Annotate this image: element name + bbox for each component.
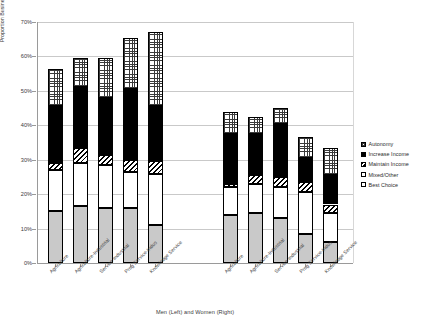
bar-men-4[interactable] [148,22,163,263]
bar-segment-mixed[interactable] [148,174,163,226]
bar-segment-maintain[interactable] [273,177,288,187]
legend-item-autonomy[interactable]: Autonomy [361,139,409,149]
bar-segment-autonomy[interactable] [223,112,238,134]
bar-segment-best[interactable] [123,208,138,263]
bar-segment-mixed[interactable] [298,192,313,233]
bar-segment-increase[interactable] [323,175,338,204]
y-tick-mark [32,194,36,195]
bar-segment-maintain[interactable] [223,184,238,187]
bar-segment-increase[interactable] [98,98,113,155]
plot-right-border [353,22,354,263]
bar-segment-mixed[interactable] [323,213,338,242]
bar-segment-maintain[interactable] [98,155,113,165]
bar-segment-best[interactable] [98,208,113,263]
bar-segment-autonomy[interactable] [48,69,63,107]
bar-segment-maintain[interactable] [298,182,313,192]
legend-label: Maintain Income [369,161,409,167]
bar-segment-autonomy[interactable] [148,32,163,106]
y-tick-label: 40% [21,122,32,128]
bar-segment-increase[interactable] [248,134,263,175]
bar-women-1[interactable] [248,22,263,263]
bar-segment-mixed[interactable] [248,184,263,213]
legend-item-increase[interactable]: Increase Income [361,149,409,159]
bar-men-0[interactable] [48,22,63,263]
y-tick-label: 20% [21,191,32,197]
bar-segment-mixed[interactable] [73,163,88,206]
y-tick-label: 0% [24,260,32,266]
bar-segment-maintain[interactable] [323,205,338,214]
bar-segment-maintain[interactable] [123,160,138,172]
y-axis-ticks: 0%10%20%30%40%50%60%70% [0,0,36,327]
bar-segment-increase[interactable] [73,87,88,147]
chart-container: 0%10%20%30%40%50%60%70% Proportion Busin… [0,0,427,327]
y-tick-mark [32,263,36,264]
legend-item-mixed[interactable]: Mixed/Other [361,170,409,180]
bar-segment-autonomy[interactable] [323,148,338,176]
bar-segment-autonomy[interactable] [248,117,263,134]
legend-swatch-autonomy-icon [361,142,366,147]
y-tick-mark [32,22,36,23]
legend-label: Mixed/Other [369,172,399,178]
bar-segment-increase[interactable] [48,106,63,163]
legend-swatch-best-icon [361,182,366,187]
legend-label: Best Choice [369,182,399,188]
y-tick-mark [32,160,36,161]
bar-women-0[interactable] [223,22,238,263]
x-axis-title: Men (Left) and Women (Right) [0,309,390,315]
bar-segment-maintain[interactable] [48,163,63,170]
y-tick-mark [32,125,36,126]
y-tick-label: 10% [21,226,32,232]
bar-segment-mixed[interactable] [48,170,63,211]
y-tick-mark [32,91,36,92]
legend-item-maintain[interactable]: Maintain Income [361,159,409,169]
bar-segment-autonomy[interactable] [123,38,138,90]
bar-segment-maintain[interactable] [148,161,163,173]
y-tick-mark [32,229,36,230]
bar-women-3[interactable] [298,22,313,263]
bar-segment-increase[interactable] [123,89,138,160]
bar-men-3[interactable] [123,22,138,263]
bar-women-4[interactable] [323,22,338,263]
bar-segment-autonomy[interactable] [73,58,88,87]
y-axis-title: Proportion Business Creators [0,0,5,72]
legend-swatch-mixed-icon [361,172,366,177]
y-tick-mark [32,56,36,57]
legend-label: Autonomy [369,141,394,147]
bar-segment-mixed[interactable] [98,165,113,208]
bar-segment-increase[interactable] [148,106,163,161]
bar-segment-best[interactable] [48,211,63,263]
bar-segment-increase[interactable] [223,134,238,184]
legend-swatch-maintain-icon [361,162,366,167]
bar-segment-mixed[interactable] [223,187,238,215]
plot-area [37,22,353,264]
y-tick-label: 50% [21,88,32,94]
bar-segment-mixed[interactable] [273,187,288,218]
legend-swatch-increase-icon [361,152,366,157]
legend-label: Increase Income [369,151,410,157]
legend-item-best[interactable]: Best Choice [361,180,409,190]
y-tick-label: 30% [21,157,32,163]
bar-segment-autonomy[interactable] [98,58,113,98]
bar-segment-increase[interactable] [298,158,313,182]
bar-segment-mixed[interactable] [123,172,138,208]
bar-segment-best[interactable] [73,206,88,263]
chart-legend: AutonomyIncrease IncomeMaintain IncomeMi… [361,139,409,190]
bar-men-1[interactable] [73,22,88,263]
bar-segment-autonomy[interactable] [273,108,288,123]
y-tick-label: 70% [21,19,32,25]
bar-segment-maintain[interactable] [248,175,263,184]
bar-women-2[interactable] [273,22,288,263]
bar-segment-increase[interactable] [273,124,288,177]
bar-men-2[interactable] [98,22,113,263]
bar-segment-autonomy[interactable] [298,137,313,158]
y-tick-label: 60% [21,53,32,59]
bar-segment-maintain[interactable] [73,148,88,163]
